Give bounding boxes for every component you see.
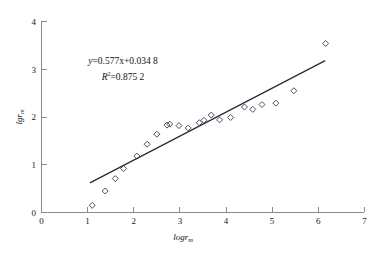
y-tick-label: 1 [32, 160, 37, 170]
x-tick-label: 1 [85, 216, 90, 226]
x-axis-tick-labels: 0 1 2 3 4 5 6 7 [39, 216, 367, 226]
y-tick-label: 0 [32, 208, 37, 218]
x-tick-label: 3 [178, 216, 183, 226]
data-point [273, 100, 279, 106]
x-axis-title-text: logr [173, 232, 189, 242]
y-axis-title-text: lgr [14, 114, 24, 125]
data-point [291, 88, 297, 94]
x-tick-label: 2 [131, 216, 136, 226]
x-axis-title-sub: m [188, 236, 193, 243]
x-tick-label: 6 [316, 216, 321, 226]
data-point [323, 40, 329, 46]
y-axis-ticks [42, 22, 47, 213]
data-point [167, 121, 173, 127]
data-point [154, 131, 160, 137]
x-axis-title: logrm [173, 232, 193, 243]
data-point [176, 123, 182, 129]
equation-body: =0.577x+0.034 8 [92, 56, 158, 66]
r-squared-annotation: R2=0.875 2 [101, 71, 145, 82]
y-axis-title-sub: m [18, 109, 25, 114]
scatter-plot: 0 1 2 3 4 5 6 7 0 1 2 3 4 logrm lgrm [0, 0, 386, 257]
data-point [228, 114, 234, 120]
x-tick-label: 5 [270, 216, 275, 226]
y-axis-tick-labels: 0 1 2 3 4 [32, 17, 37, 218]
chart-figure: 0 1 2 3 4 5 6 7 0 1 2 3 4 logrm lgrm [0, 0, 386, 257]
data-point [241, 104, 247, 110]
data-point [112, 176, 118, 182]
y-tick-label: 4 [32, 17, 37, 27]
x-tick-label: 4 [224, 216, 229, 226]
y-tick-label: 2 [32, 112, 37, 122]
data-point [102, 188, 108, 194]
x-axis-ticks [42, 207, 365, 212]
data-point [164, 122, 170, 128]
r-squared-body: =0.875 2 [110, 72, 144, 82]
y-axis-title: lgrm [14, 109, 25, 125]
x-tick-label: 0 [39, 216, 44, 226]
x-tick-label: 7 [362, 216, 367, 226]
y-tick-label: 3 [32, 65, 37, 75]
data-point [259, 102, 265, 108]
data-point [89, 202, 95, 208]
equation-annotation: y=0.577x+0.034 8 [87, 56, 158, 66]
data-point [144, 141, 150, 147]
data-point [217, 117, 223, 123]
data-point [208, 112, 214, 118]
data-point [250, 106, 256, 112]
